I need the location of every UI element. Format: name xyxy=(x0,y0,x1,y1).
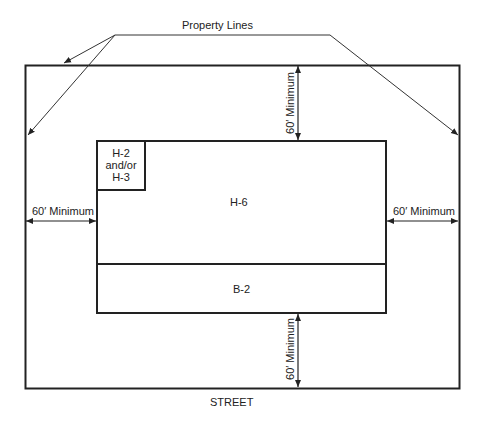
zone-andor: and/or xyxy=(97,159,145,171)
zone-h2: H-2 xyxy=(97,147,145,159)
setback-dimensions xyxy=(26,66,458,387)
property-boundary xyxy=(26,66,460,389)
setback-top-label: 60′ Minimum xyxy=(284,63,296,143)
zone-h3: H-3 xyxy=(97,171,145,183)
street-label: STREET xyxy=(210,396,253,408)
setback-bottom-label: 60′ Minimum xyxy=(284,309,296,389)
zone-b2-label: B-2 xyxy=(233,283,250,295)
setback-right-label: 60′ Minimum xyxy=(393,205,455,217)
setback-left-label: 60′ Minimum xyxy=(32,205,94,217)
property-lines-leaders xyxy=(28,35,458,135)
zone-h2-h3-label: H-2 and/or H-3 xyxy=(97,147,145,183)
property-lines-label: Property Lines xyxy=(182,19,253,31)
zone-h6-label: H-6 xyxy=(230,196,248,208)
